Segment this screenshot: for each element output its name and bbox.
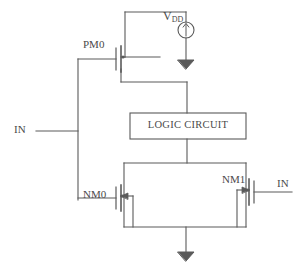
- supply-label-subscript: DD: [172, 15, 184, 24]
- schematic-svg: [0, 0, 306, 275]
- circuit-diagram-canvas: PM0 NM0 NM1 IN IN VDD LOGIC CIRCUIT: [0, 0, 306, 275]
- nmos1-label: NM1: [222, 173, 245, 185]
- supply-label: VDD: [163, 9, 183, 24]
- nmos0-label: NM0: [83, 188, 106, 200]
- nm0-node-dot: [120, 194, 123, 197]
- pmos-label: PM0: [83, 38, 104, 50]
- nm1-node-dot: [246, 188, 249, 191]
- logic-circuit-label: LOGIC CIRCUIT: [133, 119, 243, 130]
- ground-symbol-bottom: [178, 252, 194, 261]
- supply-label-main: V: [163, 9, 172, 23]
- pmos-source-node-dot: [121, 55, 124, 58]
- wire-group: [36, 12, 292, 261]
- input-label-right: IN: [277, 177, 289, 189]
- input-label-left: IN: [14, 123, 26, 135]
- ground-symbol-top: [178, 60, 194, 69]
